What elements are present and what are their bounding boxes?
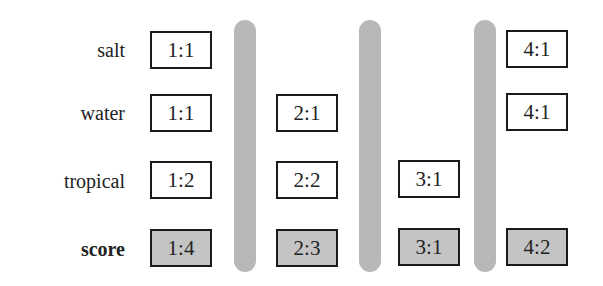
cell-water-col4: 4:1 — [506, 93, 568, 131]
cell-score-col2: 2:3 — [276, 229, 338, 267]
cell-tropical-col1: 1:2 — [150, 161, 212, 199]
cell-salt-col4: 4:1 — [506, 30, 568, 68]
row-label-salt: salt — [0, 40, 125, 60]
separator-bar-3 — [474, 20, 496, 272]
row-label-score: score — [0, 239, 125, 259]
row-label-tropical: tropical — [0, 171, 125, 191]
cell-salt-col1: 1:1 — [150, 31, 212, 69]
cell-score-col3: 3:1 — [398, 228, 460, 266]
cell-tropical-col2: 2:2 — [276, 161, 338, 199]
cell-water-col2: 2:1 — [276, 94, 338, 132]
cell-water-col1: 1:1 — [150, 94, 212, 132]
cell-score-col4: 4:2 — [506, 228, 568, 266]
separator-bar-2 — [359, 20, 381, 272]
row-label-water: water — [0, 103, 125, 123]
cell-score-col1: 1:4 — [150, 229, 212, 267]
cell-tropical-col3: 3:1 — [398, 160, 460, 198]
separator-bar-1 — [234, 20, 256, 272]
